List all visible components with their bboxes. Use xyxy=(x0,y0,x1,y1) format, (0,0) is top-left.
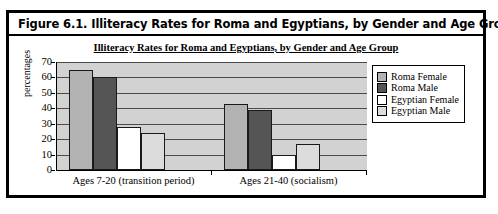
y-axis-tick-mark xyxy=(51,62,55,63)
legend-label: Egyptian Male xyxy=(391,106,450,116)
x-axis-tick-mark xyxy=(211,170,212,175)
chart-legend: Roma FemaleRoma MaleEgyptian FemaleEgypt… xyxy=(372,65,465,123)
y-axis-tick-mark xyxy=(51,93,55,94)
legend-item: Egyptian Male xyxy=(377,106,459,116)
figure-caption: Figure 6.1. Illiteracy Rates for Roma an… xyxy=(18,17,483,31)
chart-title: Illiteracy Rates for Roma and Egyptians,… xyxy=(9,42,483,53)
bar xyxy=(272,155,296,170)
y-axis-tick-mark xyxy=(51,124,55,125)
legend-item: Egyptian Female xyxy=(377,95,459,105)
legend-swatch-icon xyxy=(377,106,387,116)
bar xyxy=(69,70,93,170)
bar xyxy=(93,77,117,170)
x-axis-tick-mark xyxy=(366,170,367,175)
legend-swatch-icon xyxy=(377,83,387,93)
legend-item: Roma Male xyxy=(377,83,459,93)
y-axis-tick-mark xyxy=(51,108,55,109)
y-axis-tick-mark xyxy=(51,77,55,78)
bar xyxy=(117,127,141,170)
bar xyxy=(296,144,320,170)
legend-swatch-icon xyxy=(377,95,387,105)
y-axis-label: percentages xyxy=(21,83,32,97)
figure-container: Figure 6.1. Illiteracy Rates for Roma an… xyxy=(6,10,486,198)
plot-area xyxy=(56,62,367,171)
x-axis-tick-label: Ages 21-40 (socialism) xyxy=(240,175,338,186)
legend-swatch-icon xyxy=(377,72,387,82)
legend-label: Roma Female xyxy=(391,72,447,82)
chart: Illiteracy Rates for Roma and Egyptians,… xyxy=(9,37,483,195)
legend-label: Roma Male xyxy=(391,83,438,93)
legend-item: Roma Female xyxy=(377,72,459,82)
y-axis-tick-mark xyxy=(51,139,55,140)
bar-group xyxy=(69,62,165,170)
bar xyxy=(224,104,248,170)
bar-series-container xyxy=(57,62,367,170)
bar xyxy=(141,133,165,170)
bar-group xyxy=(224,62,320,170)
bar xyxy=(248,110,272,170)
y-axis-tick-mark xyxy=(51,155,55,156)
y-axis-ticks: 010203040506070 xyxy=(33,62,55,170)
y-axis-tick-mark xyxy=(51,170,55,171)
legend-label: Egyptian Female xyxy=(391,95,459,105)
figure-caption-bar: Figure 6.1. Illiteracy Rates for Roma an… xyxy=(9,13,483,36)
x-axis-labels: Ages 7-20 (transition period)Ages 21-40 … xyxy=(56,175,366,191)
x-axis-tick-label: Ages 7-20 (transition period) xyxy=(72,175,194,186)
